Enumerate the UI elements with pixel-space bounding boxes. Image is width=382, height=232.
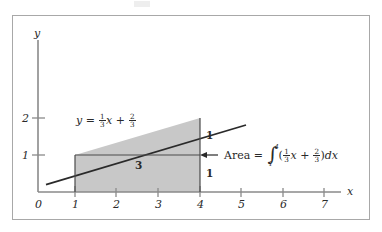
x-tick-label-4: 4 bbox=[197, 199, 204, 210]
equation-constant-denominator: 3 bbox=[129, 120, 136, 128]
integrand-constant-numerator: 2 bbox=[313, 148, 320, 155]
equation-coefficient-fraction: 1 3 bbox=[99, 113, 106, 129]
y-tick-label-1: 1 bbox=[22, 150, 29, 161]
integrand-coefficient-fraction: 1 3 bbox=[283, 148, 290, 164]
integral-upper-limit: 4 bbox=[275, 144, 279, 151]
x-axis-label: x bbox=[347, 186, 353, 197]
x-tick-label-2: 2 bbox=[113, 199, 120, 210]
x-tick-label-6: 6 bbox=[280, 199, 287, 210]
equation-lhs: y bbox=[76, 114, 82, 127]
equation-equals: = bbox=[86, 114, 95, 127]
equation-variable: x bbox=[106, 114, 112, 127]
integrand-constant-fraction: 2 3 bbox=[313, 148, 320, 164]
integrand-variable: x bbox=[290, 149, 296, 162]
x-tick-label-7: 7 bbox=[321, 199, 328, 210]
area-text: Area bbox=[224, 149, 250, 162]
integrand-coefficient-numerator: 1 bbox=[283, 148, 290, 155]
equation-plus: + bbox=[116, 114, 125, 127]
integral-symbol-group: ∫ 4 1 bbox=[268, 148, 278, 163]
integrand-plus: + bbox=[300, 149, 309, 162]
y-tick-label-2: 2 bbox=[22, 113, 29, 124]
x-tick-label-0: 0 bbox=[35, 199, 42, 210]
equation-coefficient-numerator: 1 bbox=[99, 113, 106, 120]
figure-root: y x 0 1 2 3 4 5 6 7 1 2 y = 1 3 x + 2 3 … bbox=[0, 0, 382, 232]
triangle-height-label: 1 bbox=[206, 130, 213, 141]
y-axis-label: y bbox=[34, 28, 40, 39]
function-equation-label: y = 1 3 x + 2 3 bbox=[76, 113, 136, 129]
integrand-open-paren: ( bbox=[279, 149, 283, 162]
integrand-coefficient-denominator: 3 bbox=[283, 155, 290, 163]
equation-constant-numerator: 2 bbox=[129, 113, 136, 120]
integrand-differential: dx bbox=[325, 149, 338, 162]
area-equals: = bbox=[254, 149, 263, 162]
x-tick-label-1: 1 bbox=[72, 199, 79, 210]
base-dimension-label: 3 bbox=[135, 160, 142, 171]
rectangle-height-label: 1 bbox=[206, 168, 213, 179]
equation-coefficient-denominator: 3 bbox=[99, 120, 106, 128]
integral-lower-limit: 1 bbox=[269, 161, 273, 168]
equation-constant-fraction: 2 3 bbox=[129, 113, 136, 129]
x-tick-label-3: 3 bbox=[155, 199, 162, 210]
x-tick-label-5: 5 bbox=[238, 199, 245, 210]
area-arrow-head bbox=[200, 152, 207, 158]
integrand-constant-denominator: 3 bbox=[313, 155, 320, 163]
area-integral-annotation: Area = ∫ 4 1 ( 1 3 x + 2 3 )dx bbox=[224, 148, 338, 164]
